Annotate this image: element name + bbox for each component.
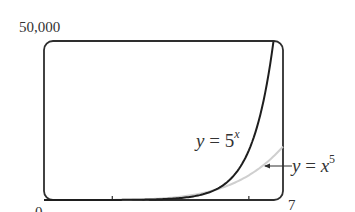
y-max-label: 50,000	[19, 19, 60, 35]
curve-5-to-x	[44, 42, 273, 200]
label-5-to-x: y = 5x	[194, 127, 240, 151]
chart: 50,000 0 7 y = 5x y = x5	[0, 0, 355, 212]
arrow-x-to-5	[264, 164, 292, 169]
x-max-label: 7	[288, 197, 296, 212]
label-x-to-5: y = x5	[290, 152, 335, 176]
x-min-label: 0	[35, 204, 43, 212]
